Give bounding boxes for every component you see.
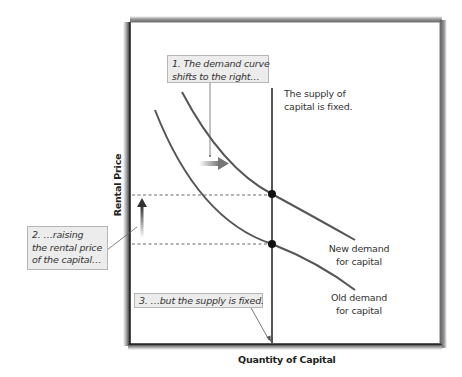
old-demand-label-line2: for capital — [325, 305, 393, 318]
supply-label-line1: The supply of — [284, 88, 352, 101]
callout-price-rise-line1: 2. …raising — [32, 229, 103, 242]
right-arrow-icon — [199, 157, 229, 170]
new-demand-label: New demand for capital — [325, 243, 393, 268]
callout-demand-shift-line1: 1. The demand curve — [172, 58, 264, 71]
callout-demand-shift-line2: shifts to the right… — [172, 71, 264, 84]
supply-label: The supply of capital is fixed. — [284, 88, 352, 113]
callout-price-rise-line3: of the capital… — [32, 254, 103, 267]
callout-fixed-supply: 3. …but the supply is fixed. — [134, 293, 263, 308]
up-arrow-icon — [137, 198, 147, 238]
capital-market-diagram: 1. The demand curve shifts to the right…… — [0, 0, 462, 377]
callout2-pointer — [107, 227, 137, 250]
new-demand-label-line2: for capital — [325, 256, 393, 269]
y-axis-label: Rental Price — [112, 154, 123, 217]
supply-label-line2: capital is fixed. — [284, 101, 352, 114]
callout-fixed-supply-text: 3. …but the supply is fixed. — [139, 296, 258, 306]
old-demand-label-line1: Old demand — [325, 292, 393, 305]
new-demand-label-line1: New demand — [325, 243, 393, 256]
new-equilibrium-point — [268, 190, 276, 198]
callout-price-rise: 2. …raising the rental price of the capi… — [27, 226, 108, 270]
callout-price-rise-line2: the rental price — [32, 242, 103, 255]
old-equilibrium-point — [268, 240, 276, 248]
callout-demand-shift: 1. The demand curve shifts to the right… — [167, 55, 269, 83]
callout3-pointer — [250, 306, 269, 340]
x-axis-label: Quantity of Capital — [238, 354, 336, 365]
old-demand-label: Old demand for capital — [325, 292, 393, 317]
